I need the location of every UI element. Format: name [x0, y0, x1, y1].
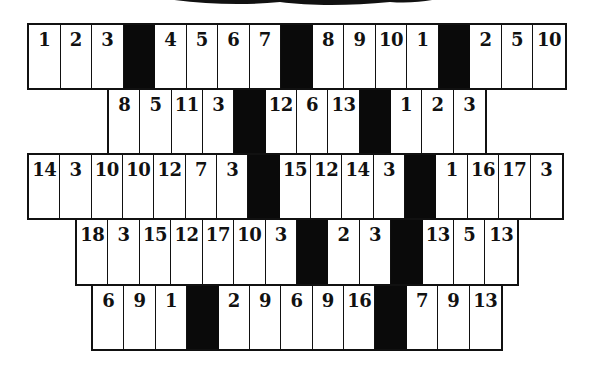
letter-cell[interactable]: 7	[250, 25, 282, 88]
puzzle-row-2: 8511312613123	[107, 88, 487, 155]
letter-cell[interactable]: 9	[344, 25, 376, 88]
black-separator-cell	[360, 90, 391, 153]
cell-number: 3	[70, 159, 82, 180]
cell-number: 16	[347, 290, 371, 311]
letter-cell[interactable]: 14	[29, 155, 60, 218]
letter-cell[interactable]: 10	[123, 155, 154, 218]
letter-cell[interactable]: 3	[374, 155, 405, 218]
letter-cell[interactable]: 11	[172, 90, 203, 153]
letter-cell[interactable]: 3	[203, 90, 234, 153]
cell-number: 3	[463, 94, 475, 115]
black-separator-cell	[234, 90, 265, 153]
letter-cell[interactable]: 8	[109, 90, 140, 153]
letter-cell[interactable]: 16	[344, 286, 375, 349]
letter-cell[interactable]: 3	[60, 155, 91, 218]
letter-cell[interactable]: 12	[154, 155, 185, 218]
black-separator-cell	[391, 220, 422, 284]
cell-number: 9	[353, 29, 365, 50]
cell-number: 7	[416, 290, 428, 311]
letter-cell[interactable]: 6	[93, 286, 124, 349]
letter-cell[interactable]: 8	[313, 25, 345, 88]
letter-cell[interactable]: 13	[470, 286, 501, 349]
letter-cell[interactable]: 9	[124, 286, 155, 349]
letter-cell[interactable]: 5	[454, 220, 485, 284]
letter-cell[interactable]: 10	[234, 220, 265, 284]
cell-number: 17	[206, 224, 230, 245]
cell-number: 18	[80, 224, 104, 245]
letter-cell[interactable]: 2	[328, 220, 359, 284]
letter-cell[interactable]: 12	[171, 220, 202, 284]
cell-number: 2	[70, 29, 82, 50]
cell-number: 7	[195, 159, 207, 180]
puzzle-row-5: 6912969167913	[91, 284, 503, 351]
letter-cell[interactable]: 2	[470, 25, 502, 88]
letter-cell[interactable]: 5	[140, 90, 171, 153]
letter-cell[interactable]: 6	[218, 25, 250, 88]
letter-cell[interactable]: 3	[266, 220, 297, 284]
cell-number: 8	[118, 94, 130, 115]
black-separator-cell	[124, 25, 156, 88]
cell-number: 4	[164, 29, 176, 50]
cell-number: 6	[290, 290, 302, 311]
letter-cell[interactable]: 7	[186, 155, 217, 218]
letter-cell[interactable]: 2	[422, 90, 453, 153]
letter-cell[interactable]: 17	[203, 220, 234, 284]
cell-number: 9	[447, 290, 459, 311]
letter-cell[interactable]: 3	[454, 90, 485, 153]
cell-number: 12	[174, 224, 198, 245]
letter-cell[interactable]: 18	[77, 220, 108, 284]
letter-cell[interactable]: 12	[311, 155, 342, 218]
letter-cell[interactable]: 3	[217, 155, 248, 218]
letter-cell[interactable]: 15	[140, 220, 171, 284]
letter-cell[interactable]: 2	[219, 286, 250, 349]
cell-number: 6	[227, 29, 239, 50]
letter-cell[interactable]: 6	[281, 286, 312, 349]
letter-cell[interactable]: 9	[313, 286, 344, 349]
cell-number: 1	[446, 159, 458, 180]
cell-number: 3	[226, 159, 238, 180]
letter-cell[interactable]: 13	[485, 220, 516, 284]
letter-cell[interactable]: 10	[376, 25, 408, 88]
black-separator-cell	[405, 155, 436, 218]
letter-cell[interactable]: 17	[499, 155, 530, 218]
cell-number: 17	[502, 159, 526, 180]
letter-cell[interactable]: 3	[92, 25, 124, 88]
cell-number: 8	[322, 29, 334, 50]
cell-number: 5	[511, 29, 523, 50]
letter-cell[interactable]: 10	[533, 25, 565, 88]
cell-number: 13	[489, 224, 513, 245]
letter-cell[interactable]: 3	[531, 155, 562, 218]
letter-cell[interactable]: 10	[92, 155, 123, 218]
letter-cell[interactable]: 9	[438, 286, 469, 349]
letter-cell[interactable]: 7	[407, 286, 438, 349]
letter-cell[interactable]: 1	[29, 25, 61, 88]
cell-number: 15	[283, 159, 307, 180]
letter-cell[interactable]: 15	[280, 155, 311, 218]
letter-cell[interactable]: 2	[61, 25, 93, 88]
letter-cell[interactable]: 16	[468, 155, 499, 218]
cell-number: 9	[134, 290, 146, 311]
letter-cell[interactable]: 3	[108, 220, 139, 284]
cell-number: 13	[331, 94, 355, 115]
letter-cell[interactable]: 1	[436, 155, 467, 218]
letter-cell[interactable]: 3	[360, 220, 391, 284]
letter-cell[interactable]: 12	[266, 90, 297, 153]
cell-number: 11	[175, 94, 199, 115]
letter-cell[interactable]: 14	[342, 155, 373, 218]
letter-cell[interactable]: 5	[187, 25, 219, 88]
letter-cell[interactable]: 1	[156, 286, 187, 349]
cell-number: 3	[212, 94, 224, 115]
letter-cell[interactable]: 5	[502, 25, 534, 88]
cell-number: 2	[228, 290, 240, 311]
letter-cell[interactable]: 6	[297, 90, 328, 153]
puzzle-row-4: 1831512171032313513	[75, 218, 519, 286]
letter-cell[interactable]: 9	[250, 286, 281, 349]
letter-cell[interactable]: 1	[391, 90, 422, 153]
cell-number: 3	[101, 29, 113, 50]
cell-number: 5	[149, 94, 161, 115]
letter-cell[interactable]: 4	[155, 25, 187, 88]
letter-cell[interactable]: 1	[407, 25, 439, 88]
letter-cell[interactable]: 13	[423, 220, 454, 284]
letter-cell[interactable]: 13	[328, 90, 359, 153]
cell-number: 12	[314, 159, 338, 180]
